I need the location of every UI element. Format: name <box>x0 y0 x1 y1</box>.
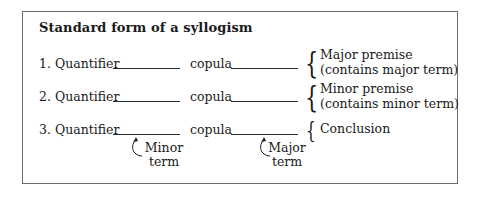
predicate-blank <box>231 68 298 69</box>
role-line-1: Conclusion <box>320 122 390 137</box>
quantifier-label: 1. Quantifier <box>39 56 119 71</box>
quantifier-label: 2. Quantifier <box>39 89 119 104</box>
copula-label: copula <box>190 56 232 71</box>
annotation-line-2: term <box>266 155 308 169</box>
quantifier-label: 3. Quantifier <box>39 122 119 137</box>
role-line-1: Minor premise <box>320 82 413 97</box>
role-line-1: Major premise <box>320 48 413 63</box>
subject-blank <box>113 101 180 102</box>
predicate-blank <box>231 134 298 135</box>
annotation-line-2: term <box>142 155 186 169</box>
major-term-annotation: Major term <box>266 141 308 169</box>
role-line-2: (contains major term) <box>320 63 458 78</box>
curly-brace-icon: { <box>305 48 318 78</box>
annotation-line-1: Major <box>266 141 308 155</box>
copula-label: copula <box>190 89 232 104</box>
curly-brace-icon: { <box>305 82 318 112</box>
subject-blank <box>113 68 180 69</box>
curly-brace-icon: { <box>306 120 316 142</box>
minor-term-annotation: Minor term <box>142 141 186 169</box>
copula-label: copula <box>190 122 232 137</box>
annotation-line-1: Minor <box>142 141 186 155</box>
diagram-title: Standard form of a syllogism <box>39 20 253 35</box>
subject-blank <box>113 134 180 135</box>
role-line-2: (contains minor term) <box>320 97 459 112</box>
predicate-blank <box>231 101 298 102</box>
